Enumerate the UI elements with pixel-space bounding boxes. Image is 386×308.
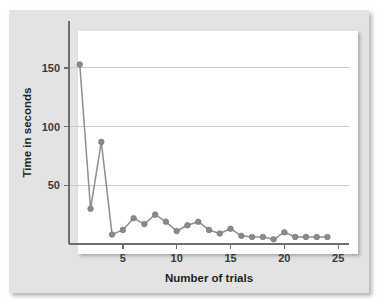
data-point-trial-22 xyxy=(303,234,309,240)
y-tick-label-150: 150 xyxy=(42,62,60,74)
y-tick-label-50: 50 xyxy=(48,179,60,191)
data-point-trial-4 xyxy=(109,232,115,238)
x-axis-title: Number of trials xyxy=(165,272,253,284)
x-tick-label-5: 5 xyxy=(120,252,126,264)
x-tick-label-10: 10 xyxy=(171,252,183,264)
x-tick-label-25: 25 xyxy=(332,252,344,264)
axes-group xyxy=(69,21,349,244)
data-point-trial-11 xyxy=(185,222,191,228)
data-point-trial-19 xyxy=(271,237,277,243)
series-line-time-in-seconds xyxy=(80,64,328,239)
data-point-trial-12 xyxy=(195,219,201,225)
data-point-trial-21 xyxy=(292,234,298,240)
data-point-trial-23 xyxy=(314,234,320,240)
y-tick-labels-group: 50100150 xyxy=(42,62,60,191)
data-point-trial-14 xyxy=(217,231,223,237)
data-point-trial-24 xyxy=(325,234,331,240)
data-point-trial-20 xyxy=(282,229,288,235)
figure-root: 50100150 510152025 Time in seconds Numbe… xyxy=(0,0,386,308)
data-point-trial-9 xyxy=(163,219,169,225)
x-tick-label-20: 20 xyxy=(278,252,290,264)
data-point-trial-7 xyxy=(142,221,148,227)
data-point-trial-18 xyxy=(260,234,266,240)
x-tick-label-15: 15 xyxy=(224,252,236,264)
data-point-trial-1 xyxy=(77,62,83,68)
data-point-trial-6 xyxy=(131,215,137,221)
figure-card: 50100150 510152025 Time in seconds Numbe… xyxy=(9,10,369,293)
y-tick-label-100: 100 xyxy=(42,121,60,133)
data-point-trial-16 xyxy=(239,233,245,239)
y-axis-title: Time in seconds xyxy=(21,88,33,178)
data-point-trial-5 xyxy=(120,227,126,233)
data-point-trial-17 xyxy=(249,234,255,240)
data-point-trial-15 xyxy=(228,226,234,232)
gridlines-group xyxy=(69,68,349,185)
x-tick-labels-group: 510152025 xyxy=(120,252,345,264)
data-point-trial-3 xyxy=(99,139,105,145)
line-chart: 50100150 510152025 Time in seconds Numbe… xyxy=(9,10,369,293)
data-point-trial-2 xyxy=(88,206,94,212)
series-markers-group xyxy=(77,62,330,242)
data-point-trial-10 xyxy=(174,228,180,234)
data-point-trial-13 xyxy=(206,227,212,233)
data-point-trial-8 xyxy=(152,212,158,218)
